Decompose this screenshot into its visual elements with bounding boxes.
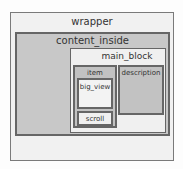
- wrapper-label: wrapper: [11, 16, 173, 27]
- description-box: description: [118, 65, 164, 115]
- item-label: item: [75, 69, 115, 77]
- description-label: description: [120, 69, 162, 77]
- content-inside-label: content_inside: [17, 35, 168, 46]
- scroll-label: scroll: [79, 115, 111, 123]
- scroll-box: scroll: [77, 111, 113, 126]
- big-view-box: big_view: [77, 78, 113, 109]
- big-view-label: big_view: [79, 83, 111, 91]
- main-block-label: main_block: [71, 51, 165, 61]
